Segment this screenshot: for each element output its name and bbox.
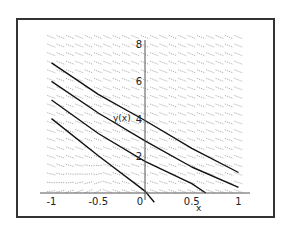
x-tick-label: 0	[137, 196, 143, 207]
slope-segment	[216, 173, 225, 176]
slope-segment	[169, 147, 178, 150]
slope-segment	[150, 87, 158, 90]
slope-segment	[160, 44, 168, 47]
slope-segment	[206, 95, 214, 98]
slope-segment	[234, 138, 243, 141]
slope-segment	[159, 190, 168, 193]
slope-segment	[122, 61, 130, 64]
slope-segment	[94, 104, 102, 107]
slope-segment	[150, 173, 159, 176]
slope-segment	[160, 35, 168, 38]
slope-segment	[234, 155, 243, 158]
slope-segment	[197, 130, 205, 133]
slope-segment	[234, 87, 242, 90]
slope-segment	[197, 121, 205, 124]
slope-segment	[169, 61, 177, 64]
slope-segment	[150, 44, 158, 47]
slope-segment	[66, 78, 74, 81]
slope-segment	[66, 53, 74, 56]
slope-segment	[225, 44, 233, 47]
slope-segment	[113, 61, 121, 64]
slope-segment	[187, 138, 196, 141]
slope-segment	[206, 113, 214, 116]
slope-segment	[234, 173, 243, 176]
slope-segment	[159, 104, 167, 107]
slope-segment	[188, 61, 196, 64]
slope-segment	[131, 138, 140, 141]
slope-segment	[188, 44, 196, 47]
slope-segment	[159, 138, 168, 141]
slope-segment	[94, 44, 102, 47]
slope-segment	[197, 70, 205, 73]
slope-segment	[206, 130, 214, 133]
slope-segment	[234, 190, 243, 193]
slope-segment	[169, 87, 177, 90]
slope-segment	[234, 164, 243, 167]
slope-segment	[103, 44, 111, 47]
y-tick-label: 2	[136, 151, 142, 162]
slope-segment	[150, 104, 158, 107]
slope-segment	[85, 138, 94, 141]
slope-segment	[188, 70, 196, 73]
slope-segment	[113, 173, 122, 176]
slope-segment	[113, 44, 121, 47]
slope-segment	[234, 181, 243, 184]
slope-segment	[66, 35, 74, 38]
slope-segment	[178, 190, 187, 193]
slope-segment	[169, 164, 178, 167]
slope-segment	[216, 138, 225, 141]
slope-segment	[216, 95, 224, 98]
slope-segment	[57, 35, 65, 38]
slope-segment	[85, 155, 94, 158]
slope-segment	[169, 121, 177, 124]
slope-segment	[206, 78, 214, 81]
slope-segment	[206, 121, 214, 124]
slope-segment	[178, 147, 187, 150]
slope-segment	[225, 35, 233, 38]
slope-segment	[188, 53, 196, 56]
slope-segment	[122, 164, 131, 167]
slope-segment	[169, 95, 177, 98]
y-axis-label: y(x)	[113, 113, 131, 123]
slope-segment	[85, 70, 93, 73]
slope-segment	[216, 181, 225, 184]
slope-segment	[47, 70, 55, 73]
slope-segment	[188, 130, 196, 133]
slope-segment	[197, 44, 205, 47]
slope-segment	[178, 173, 187, 176]
slope-segment	[188, 113, 196, 116]
slope-segment	[66, 155, 75, 158]
slope-segment	[75, 113, 83, 116]
slope-segment	[206, 87, 214, 90]
slope-segment	[113, 70, 121, 73]
slope-segment	[47, 130, 55, 133]
slope-segment	[131, 53, 139, 56]
slope-segment	[85, 130, 93, 133]
slope-segment	[150, 113, 158, 116]
slope-segment	[197, 95, 205, 98]
slope-segment	[113, 53, 121, 56]
slope-segment	[206, 53, 214, 56]
slope-segment	[75, 70, 83, 73]
slope-segment	[113, 35, 121, 38]
slope-segment	[85, 121, 93, 124]
slope-segment	[47, 53, 55, 56]
slope-segment	[57, 61, 65, 64]
slope-segment	[131, 70, 139, 73]
slope-segment	[103, 104, 111, 107]
slope-segment	[234, 147, 243, 150]
slope-segment	[75, 35, 83, 38]
slope-segment	[75, 44, 83, 47]
slope-segment	[85, 113, 93, 116]
slope-segment	[188, 78, 196, 81]
slope-segment	[178, 61, 186, 64]
slope-segment	[169, 35, 177, 38]
slope-segment	[75, 130, 83, 133]
slope-segment	[216, 53, 224, 56]
slope-segment	[84, 174, 93, 175]
slope-segment	[169, 53, 177, 56]
slope-segment	[197, 181, 206, 184]
slope-segment	[178, 164, 187, 167]
slope-segment	[66, 104, 74, 107]
slope-segment	[57, 53, 65, 56]
